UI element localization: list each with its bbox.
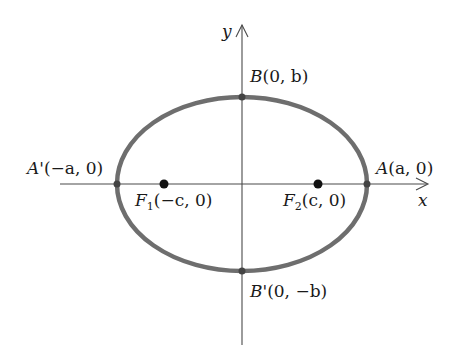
- focus-f1-point: [160, 180, 169, 189]
- y-axis-label: y: [221, 21, 232, 41]
- label-b: B(0, b): [249, 66, 308, 86]
- vertex-a-point: [364, 181, 371, 188]
- focus-f2-point: [314, 180, 323, 189]
- x-axis-label: x: [418, 190, 428, 210]
- label-a: A(a, 0): [374, 158, 433, 178]
- label-f2: F2(c, 0): [282, 190, 346, 213]
- label-a-prime: A'(−a, 0): [25, 158, 103, 178]
- vertex-a-prime-point: [114, 181, 121, 188]
- y-axis: [236, 25, 248, 345]
- covertex-b-prime-point: [239, 268, 246, 275]
- covertex-b-point: [239, 94, 246, 101]
- label-b-prime: B'(0, −b): [249, 281, 327, 301]
- label-f1: F1(−c, 0): [134, 190, 212, 213]
- ellipse-diagram: y x B(0, b) A'(−a, 0) A(a, 0) F1(−c, 0) …: [0, 0, 457, 360]
